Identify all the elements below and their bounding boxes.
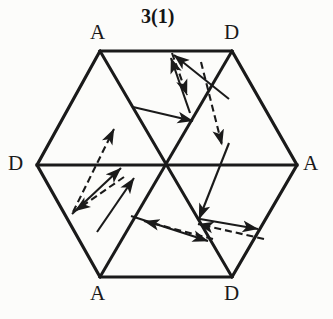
vertex-label-right: A [303, 153, 318, 174]
arrow-14-solid [131, 216, 208, 241]
figure-root: 3(1) A D D A A D [0, 0, 333, 319]
figure-title: 3(1) [141, 6, 174, 26]
arrow-10-solid [199, 143, 229, 219]
vertex-label-bottom-right: D [224, 283, 239, 304]
vertex-label-bottom-left: A [90, 283, 105, 304]
vertex-label-top-left: A [90, 22, 105, 43]
hexagon-diameters [37, 51, 297, 277]
arrow-group-lower-left [72, 168, 134, 232]
arrow-5-solid [133, 107, 193, 121]
vertex-label-left: D [8, 153, 23, 174]
arrow-6-dashed [73, 129, 114, 212]
arrow-8-dashed [75, 177, 124, 211]
hexagon-diagram [0, 0, 333, 319]
arrow-group-upper-right [171, 53, 229, 145]
vertex-label-top-right: D [224, 22, 239, 43]
